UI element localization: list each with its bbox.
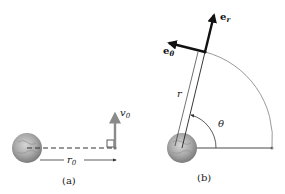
radius-dimension-line	[175, 52, 198, 146]
velocity-label: v0	[120, 107, 131, 120]
angle-label: θ	[218, 118, 224, 129]
orbit-diagram: v0 r0 (a) r θ er eθ (b)	[0, 0, 285, 194]
radius-label: r0	[67, 154, 77, 167]
radial-unit-vector	[205, 15, 214, 52]
caption-a: (a)	[62, 175, 76, 186]
orbit-arc	[205, 52, 272, 148]
panel-b: r θ er eθ (b)	[163, 11, 274, 183]
transverse-unit-vector	[169, 43, 205, 52]
transverse-unit-label: eθ	[163, 45, 174, 58]
radius-label: r	[177, 88, 183, 99]
panel-a: v0 r0 (a)	[12, 107, 131, 186]
caption-b: (b)	[197, 172, 211, 183]
right-angle-marker	[107, 140, 114, 147]
radius-line	[182, 52, 205, 148]
radial-unit-label: er	[220, 11, 231, 24]
